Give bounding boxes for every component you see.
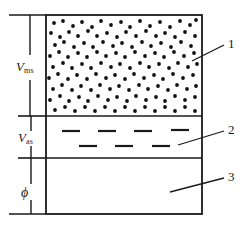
figure-container: Vms Vas ϕ 1 2 3 — [0, 0, 246, 229]
dimension-label-phi: ϕ — [21, 186, 28, 200]
dimension-label-vas: Vas — [18, 131, 33, 146]
dimension-label-vms: Vms — [16, 60, 34, 75]
dimension-label-vms-subscript: ms — [24, 66, 34, 75]
diagram-canvas — [0, 0, 246, 229]
callout-label-1: 1 — [228, 37, 235, 50]
dimension-label-vas-symbol: V — [18, 130, 26, 145]
main-box-outline — [46, 15, 202, 214]
dimension-lines — [30, 15, 31, 214]
callout-label-3: 3 — [228, 170, 235, 183]
dimension-label-vms-symbol: V — [16, 59, 24, 74]
callout-label-2: 2 — [228, 123, 235, 136]
dimension-label-vas-subscript: as — [26, 137, 33, 146]
